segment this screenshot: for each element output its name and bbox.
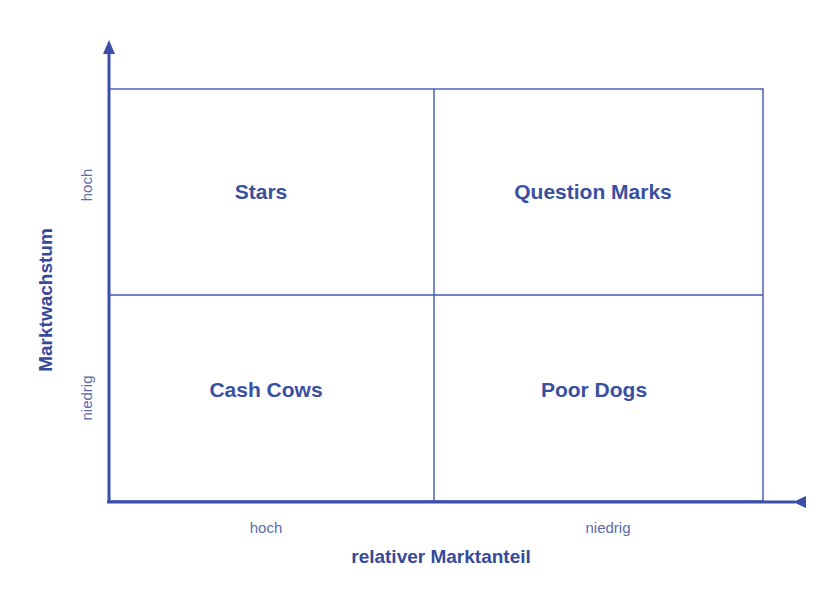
quadrant-stars: Stars — [235, 180, 288, 203]
y-axis-title: Marktwachstum — [35, 228, 56, 372]
quadrant-cash-cows: Cash Cows — [209, 378, 322, 401]
quadrant-poor-dogs: Poor Dogs — [541, 378, 647, 401]
y-axis-low-label: niedrig — [78, 375, 95, 420]
x-axis-title: relativer Marktanteil — [351, 546, 531, 567]
x-axis-left-label: hoch — [250, 519, 283, 536]
y-axis-high-label: hoch — [78, 169, 95, 202]
y-axis-arrow-icon — [103, 40, 115, 54]
quadrant-question-marks: Question Marks — [514, 180, 672, 203]
x-axis-right-label: niedrig — [585, 519, 630, 536]
bcg-matrix-diagram: Stars Question Marks Cash Cows Poor Dogs… — [0, 0, 833, 599]
x-axis-arrow-icon — [793, 496, 806, 508]
